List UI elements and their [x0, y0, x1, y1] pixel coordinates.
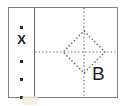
label-b: B: [92, 64, 105, 83]
dot-icon: [20, 78, 23, 81]
marker-dot-3: [9, 71, 34, 87]
marker-dot-2: [9, 53, 34, 69]
marker-column: X: [9, 8, 34, 97]
dot-icon: [20, 60, 23, 63]
diamond-graphic: [35, 8, 118, 97]
marker-x: X: [9, 31, 34, 47]
x-icon: X: [17, 33, 26, 46]
diamond-panel: B: [35, 8, 118, 97]
figure-frame: X B: [8, 7, 118, 98]
scan-artifact: [22, 96, 38, 105]
dot-icon: [20, 26, 23, 29]
figure-root: X B: [0, 0, 126, 106]
